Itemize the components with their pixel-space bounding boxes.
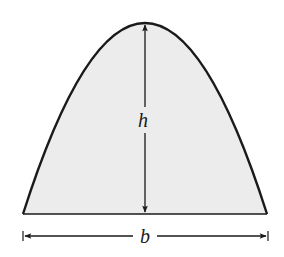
height-label: h <box>138 109 148 131</box>
base-label: b <box>140 225 150 247</box>
parabolic-segment-diagram: h b <box>0 0 284 257</box>
